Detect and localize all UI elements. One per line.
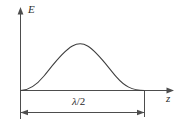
dimension-arrowhead-left (21, 110, 29, 116)
vertical-axis-label: E (28, 4, 35, 15)
horizontal-axis-label: z (166, 93, 170, 104)
lambda-divisor: /2 (77, 95, 86, 107)
standing-wave-figure (0, 0, 183, 128)
field-amplitude-curve (21, 44, 145, 91)
vertical-axis-arrowhead (18, 7, 24, 15)
dimension-label: λ/2 (72, 96, 85, 107)
figure-container: E z λ/2 (0, 0, 183, 128)
dimension-arrowhead-right (137, 110, 145, 116)
